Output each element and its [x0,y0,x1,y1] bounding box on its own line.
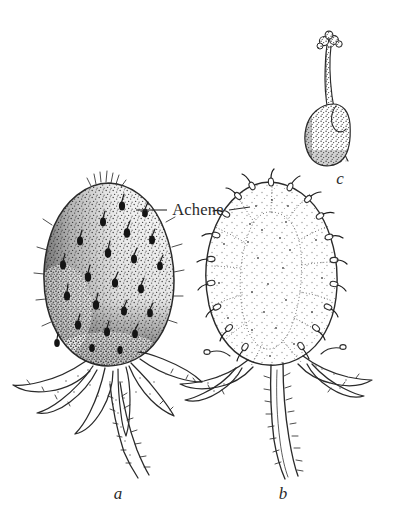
sepal-left-lower [37,366,97,413]
panel-label-c: c [336,169,344,188]
sepal-b-left-lower [185,368,242,401]
achene-body-shading [298,98,358,176]
panel-c-achene: c [298,31,358,188]
sepal-b-left-outer [180,360,253,389]
sepal-right-outer [138,352,202,382]
achene-label: Achene [172,200,224,219]
sepal-right-lower [129,363,174,416]
pedicel-b-edge-right [283,363,298,476]
pedicel-a-hairs [108,393,150,467]
botanical-figure: c [0,0,403,526]
panel-label-b: b [279,484,288,503]
pedicel-b [264,363,303,479]
pedicel-a-edge-right [120,382,149,475]
sepal-center [118,367,130,436]
sepal-hairs-a [27,369,188,410]
illustration-canvas: c [0,0,403,526]
achene-open-mark [268,169,274,186]
sepal-b-right-lower [307,364,364,397]
bract-right-stalk [321,348,340,354]
pedicel-a [108,382,150,478]
bract-left-stalk [210,351,230,356]
sepal-b-right-outer [298,356,372,386]
panel-a-whole-fruit: a [13,171,202,503]
receptacle-shading-a [32,178,180,374]
achene-mark [117,346,122,354]
sepal-left-inner [75,368,113,434]
bract-right-tip [340,345,346,350]
achene-mark [89,344,95,352]
panel-label-a: a [114,484,123,503]
bract-left-tip [204,350,210,355]
achene-open-mark [324,233,343,240]
achene-open-mark [330,257,347,264]
panel-b-section: b [180,169,372,503]
